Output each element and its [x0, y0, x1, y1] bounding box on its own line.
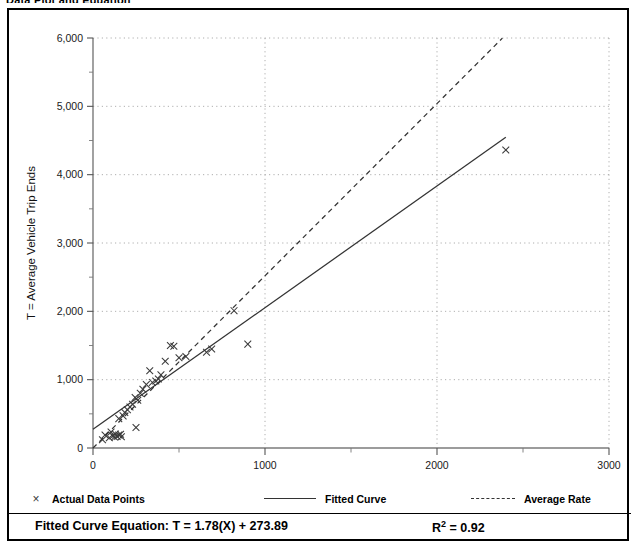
equation-bar: Fitted Curve Equation: T = 1.78(X) + 273…: [9, 514, 631, 539]
data-point-marker: [244, 341, 251, 348]
legend-label-actual-data-points: Actual Data Points: [52, 493, 145, 505]
r-squared-value: R2 = 0.92: [432, 519, 485, 535]
legend-item-actual-data-points: × Actual Data Points: [29, 488, 145, 510]
y-axis-title: T = Average Vehicle Trip Ends: [25, 166, 37, 320]
x-tick-label: 1000: [253, 459, 277, 471]
y-tick-label: 0: [77, 442, 83, 454]
data-point-marker: [182, 353, 189, 360]
y-tick-label: 6,000: [57, 32, 83, 44]
legend-item-average-rate: Average Rate: [471, 488, 591, 510]
data-point-marker: [143, 381, 150, 388]
dashed-line-swatch-icon: [471, 493, 515, 505]
y-tick-label: 4,000: [57, 168, 83, 180]
data-point-marker: [231, 307, 238, 314]
fitted-curve-equation: Fitted Curve Equation: T = 1.78(X) + 273…: [35, 519, 288, 533]
legend-label-fitted-curve: Fitted Curve: [325, 493, 386, 505]
r-squared-symbol: R: [432, 521, 441, 535]
y-tick-label: 5,000: [57, 100, 83, 112]
r-squared-exponent: 2: [441, 519, 446, 529]
data-point-marker: [176, 354, 183, 361]
data-point-marker: [502, 147, 509, 154]
x-tick-label: 3000: [597, 459, 621, 471]
legend-item-fitted-curve: Fitted Curve: [264, 488, 386, 510]
figure-caption: Data Plot and Equation: [6, 0, 131, 3]
data-point-marker: [146, 367, 153, 374]
solid-line-swatch-icon: [264, 493, 316, 505]
y-tick-label: 2,000: [57, 305, 83, 317]
data-point-marker: [162, 358, 169, 365]
x-tick-label: 0: [90, 459, 96, 471]
figure-frame: 01,0002,0003,0004,0005,0006,000010002000…: [7, 8, 629, 541]
cross-marker-icon: ×: [29, 493, 43, 505]
r-squared-number: = 0.92: [450, 521, 485, 535]
data-point-marker: [115, 415, 122, 422]
x-tick-label: 2000: [425, 459, 449, 471]
y-tick-label: 3,000: [57, 237, 83, 249]
figure-page: Data Plot and Equation 01,0002,0003,0004…: [0, 0, 637, 549]
data-point-group: [99, 147, 509, 444]
chart-legend: × Actual Data Points Fitted Curve Averag…: [9, 488, 631, 510]
y-tick-label: 1,000: [57, 373, 83, 385]
fitted-curve-line: [93, 137, 506, 429]
scatter-plot: 01,0002,0003,0004,0005,0006,000010002000…: [9, 10, 631, 480]
data-point-marker: [118, 433, 125, 440]
data-point-marker: [133, 424, 140, 431]
legend-label-average-rate: Average Rate: [524, 493, 591, 505]
